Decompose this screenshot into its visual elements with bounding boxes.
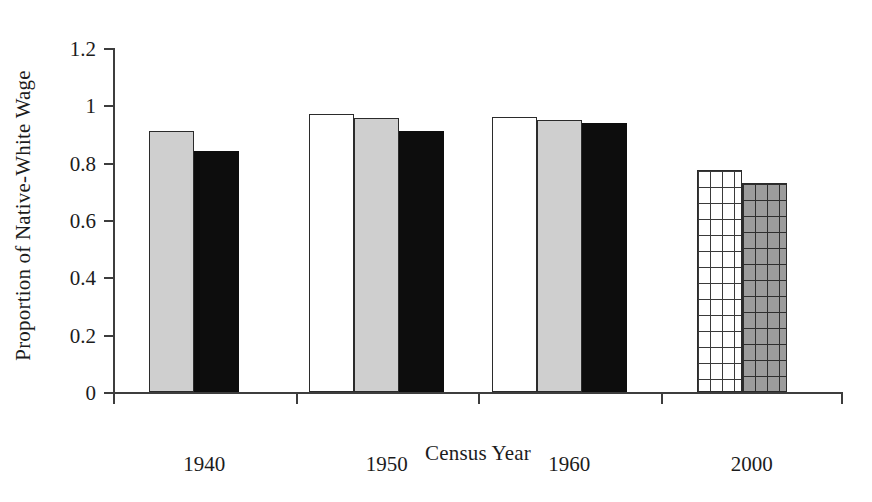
y-tick-label: 0.4 xyxy=(70,266,96,291)
y-tick-0.6: 0.6 xyxy=(104,220,113,222)
plot-area: 00.20.40.60.811.2 1940195019602000 xyxy=(113,48,843,392)
y-tick-0: 0 xyxy=(104,392,113,394)
bar-2000-series-4 xyxy=(697,170,742,392)
y-axis-label: Proportion of Native-White Wage xyxy=(11,70,36,360)
y-tick-label: 1 xyxy=(86,94,97,119)
bar-chart-figure: Proportion of Native-White Wage 00.20.40… xyxy=(0,0,872,502)
bar-1960-series-1 xyxy=(492,117,537,392)
y-tick-0.8: 0.8 xyxy=(104,163,113,165)
y-axis-label-container: Proportion of Native-White Wage xyxy=(0,0,46,430)
bar-1960-series-3 xyxy=(582,123,627,392)
bar-1960-series-2 xyxy=(537,120,582,392)
x-axis-label: Census Year xyxy=(113,441,843,466)
x-tick-1940 xyxy=(113,394,115,404)
bar-1940-series-3 xyxy=(194,151,239,392)
bar-2000-series-5 xyxy=(742,183,787,392)
bar-1950-series-1 xyxy=(309,114,354,392)
x-tick-2000 xyxy=(661,394,663,404)
y-tick-label: 0 xyxy=(86,381,97,406)
bar-1950-series-3 xyxy=(399,131,444,392)
x-tick-1950 xyxy=(296,394,298,404)
y-tick-0.2: 0.2 xyxy=(104,335,113,337)
y-tick-1.2: 1.2 xyxy=(104,48,113,50)
y-tick-label: 1.2 xyxy=(70,37,96,62)
y-tick-1: 1 xyxy=(104,105,113,107)
bar-1950-series-2 xyxy=(354,118,399,392)
y-axis-line xyxy=(113,48,115,393)
y-tick-label: 0.2 xyxy=(70,323,96,348)
y-tick-label: 0.8 xyxy=(70,151,96,176)
x-tick-1960 xyxy=(478,394,480,404)
y-tick-0.4: 0.4 xyxy=(104,277,113,279)
bar-1940-series-2 xyxy=(149,131,194,392)
y-tick-label: 0.6 xyxy=(70,209,96,234)
x-tick-end xyxy=(841,394,843,404)
